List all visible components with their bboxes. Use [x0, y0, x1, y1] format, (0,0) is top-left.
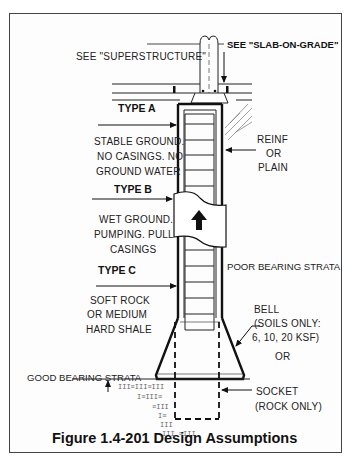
type-b-label: TYPE B — [114, 183, 152, 195]
reinf-label-1: REINF — [257, 134, 288, 145]
socket-label-2: (ROCK ONLY) — [255, 401, 322, 412]
good-strata-label: GOOD BEARING STRATA — [27, 372, 142, 383]
bell-label-1: BELL — [254, 304, 280, 315]
type-a-desc-2: NO CASINGS. NO — [97, 151, 183, 162]
reinf-label-3: PLAIN — [258, 162, 288, 173]
reinf-label-2: OR — [266, 148, 281, 159]
svg-text:≡III: ≡III — [152, 403, 169, 411]
type-a-label: TYPE A — [118, 102, 156, 114]
superstructure-ref-label: SEE "SUPERSTRUCTURE" — [76, 51, 206, 62]
svg-text:I≡III≡: I≡III≡ — [137, 393, 162, 401]
type-c-desc-1: SOFT ROCK — [90, 295, 150, 306]
type-b-desc-3: CASINGS — [110, 244, 157, 255]
type-c-desc-2: OR MEDIUM — [87, 309, 147, 320]
svg-text:III: III — [160, 421, 173, 429]
svg-text:I≡: I≡ — [158, 412, 166, 420]
type-b-desc-1: WET GROUND. — [99, 214, 173, 225]
poor-strata-label: POOR BEARING STRATA — [227, 261, 341, 272]
type-c-desc-3: HARD SHALE — [86, 324, 152, 335]
bell-footing — [156, 318, 244, 379]
socket-label-1: SOCKET — [256, 386, 298, 397]
slab-on-grade-ref-label: SEE "SLAB-ON-GRADE" — [227, 39, 338, 50]
bell-label-3: 6, 10, 20 KSF) — [252, 332, 319, 343]
type-a-desc-3: GROUND WATER — [96, 166, 181, 177]
type-c-label: TYPE C — [98, 264, 136, 276]
type-a-desc-1: STABLE GROUND. — [94, 136, 184, 147]
earth-hatch-top — [225, 104, 252, 140]
slab-on-grade — [112, 84, 252, 103]
type-b-desc-2: PUMPING. PULL — [94, 229, 174, 240]
svg-text:III≡III≡III: III≡III≡III — [118, 383, 164, 391]
caisson-diagram: III≡III≡III I≡III≡ ≡III I≡ III III ≡III … — [0, 0, 353, 467]
figure-caption: Figure 1.4-201 Design Assumptions — [52, 430, 297, 446]
bell-label-2: (SOILS ONLY: — [254, 318, 321, 329]
rock-socket — [175, 322, 219, 419]
or-label: OR — [275, 351, 290, 362]
